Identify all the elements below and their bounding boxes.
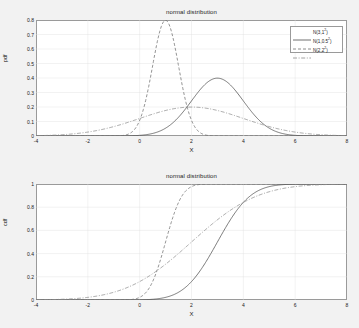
x-tick-label: 8 — [337, 138, 357, 144]
x-tick-label: 2 — [182, 138, 202, 144]
x-tick-label: 8 — [337, 302, 357, 308]
legend-item-label: N(3,12) — [313, 29, 328, 35]
x-tick-label: 0 — [130, 138, 150, 144]
pdf-plot-title: normal distribution — [36, 9, 347, 15]
x-tick-label: -4 — [26, 138, 46, 144]
x-tick-label: -2 — [78, 138, 98, 144]
figure-canvas: normal distribution pdf 00.10.20.30.40.5… — [0, 0, 359, 328]
pdf-x-axis-label: X — [36, 147, 347, 153]
x-tick-label: 4 — [233, 302, 253, 308]
y-tick-label: 0.4 — [12, 75, 34, 81]
cdf-plot-title: normal distribution — [36, 173, 347, 179]
y-tick-label: 0.3 — [12, 90, 34, 96]
y-tick-label: 0.2 — [12, 104, 34, 110]
x-tick-label: -4 — [26, 302, 46, 308]
y-tick-label: 0.6 — [12, 46, 34, 52]
legend-item-label: N(2,22) — [313, 47, 328, 53]
cdf-curves — [36, 184, 347, 300]
x-tick-label: 6 — [285, 302, 305, 308]
y-tick-label: 0.5 — [12, 61, 34, 67]
x-tick-label: 2 — [182, 302, 202, 308]
y-tick-label: 0.7 — [12, 32, 34, 38]
x-tick-label: 4 — [233, 138, 253, 144]
pdf-plot-panel: normal distribution pdf 00.10.20.30.40.5… — [0, 0, 359, 164]
y-tick-label: 0.6 — [12, 227, 34, 233]
pdf-y-tick-labels: 00.10.20.30.40.50.60.70.8 — [10, 20, 34, 136]
cdf-x-tick-labels: -4-202468 — [36, 302, 347, 310]
legend-line-sample-icon — [293, 29, 311, 35]
pdf-legend: N(3,12)N(1,0.52)N(2,22) — [290, 26, 343, 53]
legend-line-sample-icon — [293, 47, 311, 53]
legend-line-sample-icon — [293, 38, 311, 44]
legend-item: N(1,0.52) — [291, 37, 342, 45]
cdf-y-tick-labels: 00.20.40.60.81 — [10, 184, 34, 300]
y-tick-label: 0.4 — [12, 251, 34, 257]
x-tick-label: -2 — [78, 302, 98, 308]
y-tick-label: 1 — [12, 181, 34, 187]
pdf-y-axis-label: pdf — [2, 54, 8, 62]
y-tick-label: 0.1 — [12, 119, 34, 125]
legend-item: N(2,22) — [291, 46, 342, 54]
cdf-plot-panel: normal distribution cdf 00.20.40.60.81 -… — [0, 164, 359, 328]
legend-item: N(3,12) — [291, 28, 342, 36]
legend-item-label: N(1,0.52) — [313, 38, 332, 44]
y-tick-label: 0.2 — [12, 274, 34, 280]
x-tick-label: 0 — [130, 302, 150, 308]
pdf-x-tick-labels: -4-202468 — [36, 138, 347, 146]
cdf-y-axis-label: cdf — [2, 219, 8, 226]
x-tick-label: 6 — [285, 138, 305, 144]
cdf-x-axis-label: X — [36, 311, 347, 317]
y-tick-label: 0.8 — [12, 17, 34, 23]
y-tick-label: 0.8 — [12, 204, 34, 210]
